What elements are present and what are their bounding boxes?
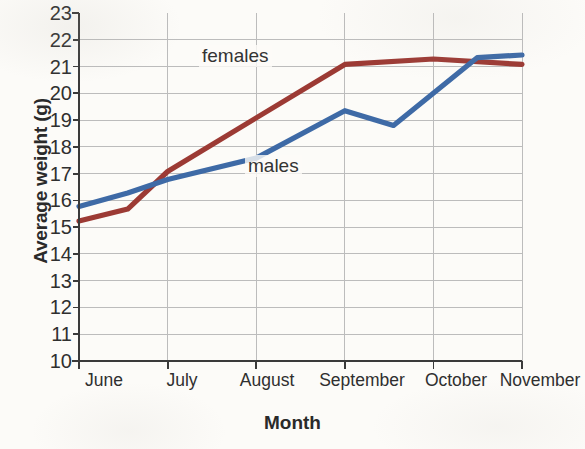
y-tick-18: 18 (26, 137, 72, 157)
y-tick-17: 17 (26, 164, 72, 184)
y-axis-tick-labels: 23 22 21 20 19 18 17 16 15 14 13 12 11 1… (14, 0, 72, 449)
y-tick-21: 21 (26, 57, 72, 77)
x-tick-october: October (425, 370, 487, 391)
series-line-males (79, 55, 522, 206)
y-tick-14: 14 (26, 244, 72, 264)
y-tick-12: 12 (26, 297, 72, 317)
y-tick-22: 22 (26, 30, 72, 50)
y-tick-10: 10 (26, 351, 72, 371)
x-tick-july: July (166, 370, 197, 391)
x-axis-title: Month (0, 412, 585, 434)
line-chart-figure: Average weight (g) 23 22 21 20 19 18 17 … (0, 0, 585, 449)
y-tick-13: 13 (26, 271, 72, 291)
x-tick-november: November (500, 370, 581, 391)
y-tick-16: 16 (26, 190, 72, 210)
x-tick-september: September (319, 370, 405, 391)
x-tick-june: June (85, 370, 123, 391)
y-tick-19: 19 (26, 110, 72, 130)
y-tick-11: 11 (26, 324, 72, 344)
y-tick-20: 20 (26, 83, 72, 103)
y-tick-23: 23 (26, 3, 72, 23)
x-tick-august: August (240, 370, 294, 391)
series-line-females (79, 59, 522, 221)
series-annotation-males: males (245, 155, 302, 177)
y-tick-15: 15 (26, 217, 72, 237)
series-annotation-females: females (199, 45, 272, 67)
